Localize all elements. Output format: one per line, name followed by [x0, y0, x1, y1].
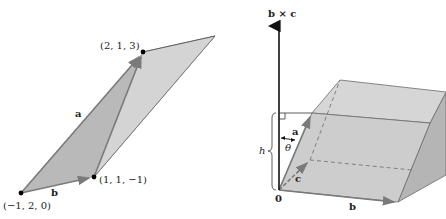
point-marker [19, 191, 24, 196]
vector-a-label: a [292, 126, 299, 137]
point-label-origin: (−1, 2, 0) [3, 200, 51, 211]
angle-label: θ [285, 142, 291, 153]
vector-c-label: c [295, 173, 301, 184]
angle-arrow-right-icon [291, 138, 295, 142]
parallelogram-figure: (−1, 2, 0) (1, 1, −1) (2, 1, 3) a b [3, 36, 215, 211]
point-marker [92, 175, 97, 180]
diagram-canvas: (−1, 2, 0) (1, 1, −1) (2, 1, 3) a b b × … [0, 0, 446, 219]
right-angle-marker [279, 113, 285, 119]
vector-a-label: a [75, 108, 82, 119]
point-label-b-end: (1, 1, −1) [99, 174, 147, 185]
axis-label: b × c [268, 8, 296, 19]
vector-b-label: b [349, 201, 356, 212]
angle-arrow-left-icon [281, 136, 285, 140]
origin-label: 0 [275, 193, 282, 204]
point-marker [141, 50, 146, 55]
parallelepiped-figure: b × c 0 a b c θ h [259, 8, 446, 212]
point-label-a-end: (2, 1, 3) [100, 40, 140, 51]
height-brace [268, 113, 276, 190]
vector-b-label: b [51, 187, 58, 198]
height-label: h [259, 145, 265, 156]
